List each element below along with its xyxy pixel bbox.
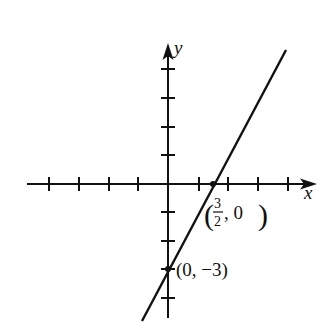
x-intercept-point — [210, 181, 216, 187]
graph-canvas: y x ( 3 2 , 0 ) (0, −3) — [0, 0, 336, 330]
svg-text:2: 2 — [214, 214, 221, 229]
y-intercept-point — [165, 266, 171, 272]
svg-text:, 0: , 0 — [224, 202, 243, 223]
svg-text:3: 3 — [214, 196, 221, 211]
x-axis-label: x — [303, 182, 313, 203]
svg-text:(: ( — [204, 198, 214, 232]
y-intercept-label: (0, −3) — [176, 259, 228, 281]
y-axis-label: y — [172, 37, 183, 58]
svg-text:): ) — [258, 198, 268, 232]
x-intercept-label: ( 3 2 , 0 ) — [204, 196, 268, 232]
